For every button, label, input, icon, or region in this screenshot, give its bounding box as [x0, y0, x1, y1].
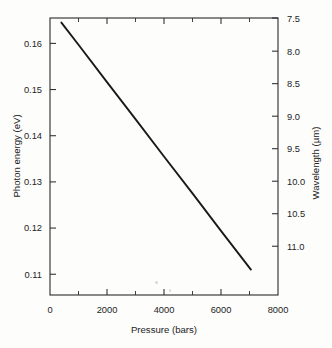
tick-label: 0.15 [24, 85, 42, 95]
tick-label: 4000 [154, 305, 175, 315]
tick-label: 9.0 [287, 112, 300, 122]
y-axis-left-tick-labels: 0.160.150.140.130.120.11 [24, 39, 42, 280]
x-axis-label: Pressure (bars) [131, 324, 197, 335]
chart-figure: 02000400060008000 0.160.150.140.130.120.… [0, 0, 332, 348]
scan-speck [155, 281, 158, 284]
tick-label: 2000 [97, 305, 118, 315]
tick-label: 11.0 [287, 242, 304, 252]
x-axis-tick-labels: 02000400060008000 [47, 305, 288, 315]
tick-label: 0.11 [25, 270, 42, 280]
data-line-photon-energy [61, 23, 251, 270]
tick-label: 0.13 [24, 177, 42, 187]
tick-label: 0.16 [24, 39, 42, 49]
y-axis-right-label: Wavelength (µm) [310, 127, 321, 200]
x-axis-major-ticks [107, 289, 221, 295]
tick-label: 6000 [211, 305, 232, 315]
tick-label: 8.5 [287, 79, 300, 89]
tick-label: 0.14 [24, 131, 42, 141]
tick-label: 7.5 [287, 14, 300, 24]
y-axis-right-ticks [272, 18, 278, 246]
tick-label: 10.0 [287, 177, 305, 187]
tick-label: 0.12 [24, 223, 42, 233]
tick-label: 8000 [268, 305, 289, 315]
y-axis-right-tick-labels: 7.58.08.59.09.510.010.511.0 [287, 14, 305, 251]
y-axis-left-label: Photon energy (eV) [11, 114, 22, 197]
photon-energy-pressure-chart: 02000400060008000 0.160.150.140.130.120.… [0, 0, 332, 348]
tick-label: 8.0 [287, 47, 300, 57]
x-axis-top-ticks [79, 18, 250, 24]
tick-label: 10.5 [287, 209, 305, 219]
tick-label: 9.5 [287, 144, 300, 154]
scan-speck [169, 289, 171, 292]
tick-label: 0 [47, 305, 52, 315]
y-axis-left-ticks [50, 43, 56, 274]
